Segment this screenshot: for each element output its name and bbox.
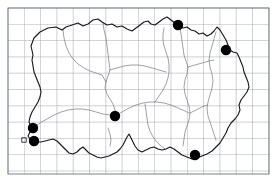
record-dot bbox=[173, 20, 183, 30]
record-dot bbox=[110, 111, 120, 121]
record-dot bbox=[29, 136, 39, 146]
record-dot bbox=[190, 150, 200, 160]
map-canvas bbox=[0, 0, 277, 182]
record-dot bbox=[28, 123, 38, 133]
record-dot bbox=[221, 45, 231, 55]
distribution-map-figure bbox=[0, 0, 277, 182]
